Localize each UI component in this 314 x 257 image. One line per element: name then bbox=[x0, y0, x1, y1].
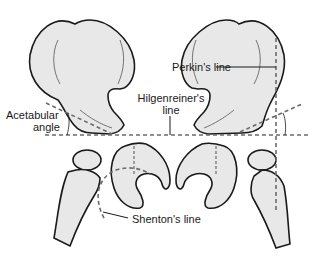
hilgenreiner-line-label-2: line bbox=[131, 104, 211, 116]
right-ilium bbox=[181, 20, 284, 134]
acetabular-angle-label-2: angle bbox=[33, 121, 60, 133]
acetabular-angle-label-1: Acetabular bbox=[6, 109, 59, 121]
acetabular-angle-arc-right bbox=[283, 113, 286, 135]
right-femur bbox=[251, 170, 290, 248]
left-femur bbox=[54, 169, 100, 246]
hilgenreiner-line-label-1: Hilgenreiner's bbox=[131, 92, 211, 104]
shentons-line-label: Shenton's line bbox=[132, 213, 201, 225]
right-femoral-head bbox=[248, 150, 276, 170]
right-ischiopubic bbox=[176, 143, 237, 208]
left-femoral-head bbox=[73, 150, 101, 170]
shentons-leader bbox=[103, 212, 128, 218]
left-ischiopubic bbox=[111, 143, 170, 208]
perkins-line-label: Perkin's line bbox=[172, 61, 231, 73]
